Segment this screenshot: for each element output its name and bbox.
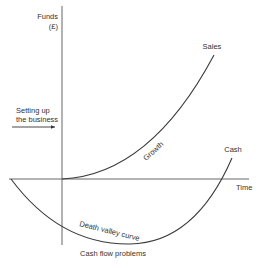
y-axis-label: Funds [37,12,58,21]
cash-flow-problems-label: Cash flow problems [80,249,146,258]
growth-annotation: Growth [141,140,165,163]
death-valley-annotation: Death valley curve [79,219,141,243]
cash-flow-diagram: Funds (£) Sales Cash Time Setting up the… [0,0,259,268]
setup-label-line1: Setting up [16,106,50,115]
x-axis-label: Time [236,183,252,192]
sales-curve [62,55,214,179]
y-axis-unit: (£) [49,22,59,31]
setup-label-line2: the business [16,115,58,124]
sales-label: Sales [203,42,222,51]
cash-label: Cash [224,145,242,154]
